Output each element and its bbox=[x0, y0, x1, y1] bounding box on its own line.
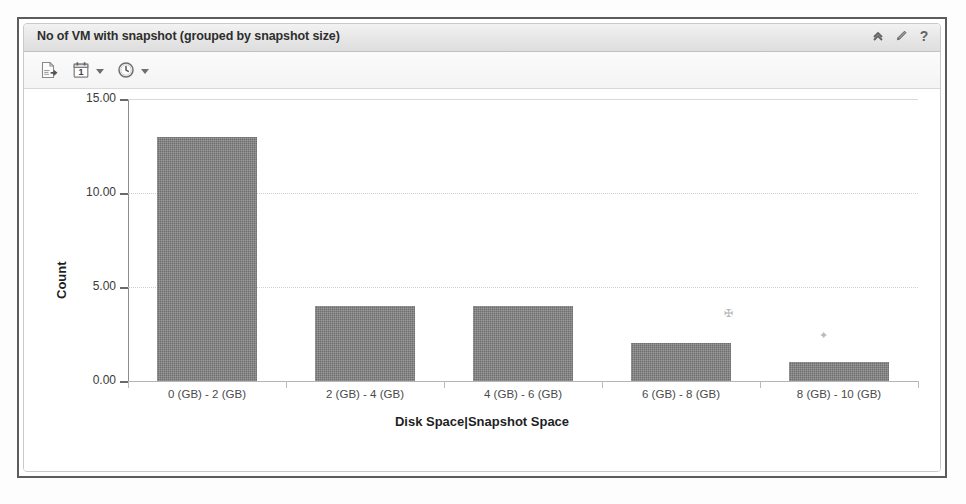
clock-icon bbox=[116, 60, 136, 80]
export-button[interactable] bbox=[35, 57, 63, 83]
chart-toolbar: 1 bbox=[24, 52, 940, 89]
bar[interactable] bbox=[473, 306, 573, 381]
page-title: No of VM with snapshot (grouped by snaps… bbox=[37, 29, 340, 43]
chevron-down-icon[interactable] bbox=[96, 69, 104, 74]
y-tick-label: 0.00 bbox=[50, 373, 116, 387]
x-tick-mark bbox=[128, 381, 129, 388]
bar[interactable] bbox=[315, 306, 415, 381]
help-icon[interactable]: ? bbox=[917, 28, 931, 44]
x-tick-label: 4 (GB) - 6 (GB) bbox=[444, 388, 602, 400]
svg-text:1: 1 bbox=[78, 67, 83, 77]
y-tick-label: 15.00 bbox=[50, 91, 116, 105]
y-tick-mark bbox=[120, 287, 128, 289]
gridline bbox=[128, 99, 918, 100]
bar[interactable] bbox=[631, 343, 731, 381]
plot-area bbox=[128, 99, 918, 381]
x-tick-mark bbox=[602, 381, 603, 388]
gridline bbox=[128, 381, 918, 382]
y-tick-mark bbox=[120, 381, 128, 383]
y-tick-label: 5.00 bbox=[50, 279, 116, 293]
portlet-inner: No of VM with snapshot (grouped by snaps… bbox=[23, 23, 941, 472]
y-tick-mark bbox=[120, 193, 128, 195]
x-axis-title: Disk Space|Snapshot Space bbox=[24, 414, 940, 429]
x-tick-mark bbox=[444, 381, 445, 388]
collapse-icon[interactable] bbox=[871, 28, 885, 44]
portlet-header: No of VM with snapshot (grouped by snaps… bbox=[24, 24, 940, 52]
y-tick-label: 10.00 bbox=[50, 185, 116, 199]
x-tick-label: 0 (GB) - 2 (GB) bbox=[128, 388, 286, 400]
x-tick-label: 8 (GB) - 10 (GB) bbox=[760, 388, 918, 400]
export-icon bbox=[39, 60, 59, 80]
bar[interactable] bbox=[789, 362, 889, 381]
x-tick-label: 2 (GB) - 4 (GB) bbox=[286, 388, 444, 400]
chart-canvas: Count Disk Space|Snapshot Space ✠ ✦ 0.00… bbox=[24, 89, 940, 472]
svg-text:?: ? bbox=[920, 28, 929, 44]
bar[interactable] bbox=[157, 137, 257, 381]
x-tick-mark bbox=[760, 381, 761, 388]
x-tick-mark bbox=[918, 381, 919, 388]
x-tick-mark bbox=[286, 381, 287, 388]
header-tools: ? bbox=[871, 28, 931, 44]
x-tick-label: 6 (GB) - 8 (GB) bbox=[602, 388, 760, 400]
edit-icon[interactable] bbox=[894, 28, 908, 44]
y-tick-mark bbox=[120, 99, 128, 101]
chevron-down-icon[interactable] bbox=[141, 69, 149, 74]
date-range-button[interactable]: 1 bbox=[67, 57, 108, 83]
time-range-button[interactable] bbox=[112, 57, 153, 83]
scanned-page: No of VM with snapshot (grouped by snaps… bbox=[0, 0, 966, 504]
chart-portlet: No of VM with snapshot (grouped by snaps… bbox=[17, 17, 947, 478]
calendar-icon: 1 bbox=[71, 60, 91, 80]
